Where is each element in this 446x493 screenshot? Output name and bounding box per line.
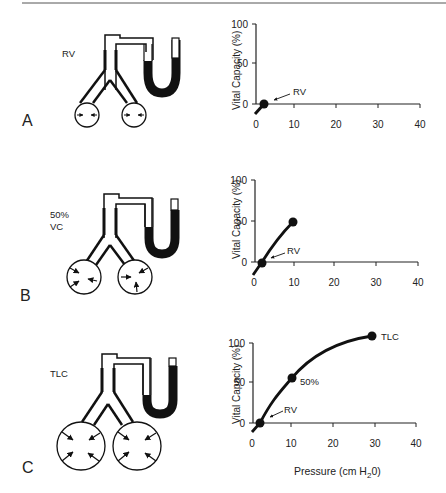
y-axis-label: Vital Capacity (%) [231,31,242,110]
y-tick-50: 50 [237,58,249,69]
y-tick-100: 100 [230,175,247,186]
chart-b: Vital Capacity (%) 100 50 0 0 10 20 30 4… [230,175,424,288]
panel-letter-c: C [22,459,34,476]
point-rv [260,100,269,109]
y-tick-0: 0 [242,99,248,110]
point-tlc [368,332,377,341]
state-label-tlc: TLC [50,368,68,379]
lung-apparatus-b [67,194,178,294]
x-tick-10: 10 [285,438,297,449]
annotation-arrow [270,411,283,417]
y-tick-0: 0 [239,418,245,429]
alveolus-left [67,260,101,294]
annotation-rv: RV [284,404,298,415]
panel-b: B 50% VC Vital Capacity (%) [20,175,424,304]
point-50 [288,374,297,383]
panel-a: A RV [22,19,426,130]
panel-letter-b: B [20,287,31,304]
annotation-arrow [274,94,290,100]
x-tick-40: 40 [414,119,426,130]
x-tick-0: 0 [249,438,255,449]
annotation-rv: RV [293,86,307,97]
x-tick-30: 30 [369,438,381,449]
figure-canvas: A RV [0,0,446,493]
x-tick-0: 0 [251,277,257,288]
annotation-rv: RV [287,245,301,256]
annotation-tlc: TLC [381,331,399,342]
x-tick-40: 40 [412,277,424,288]
x-tick-20: 20 [327,438,339,449]
state-label-50: 50% [50,209,70,220]
state-label-rv: RV [62,48,76,59]
point-rv [258,259,267,268]
chart-a: Vital Capacity (%) 100 50 0 0 10 20 30 4… [231,19,426,130]
panel-c: C TLC Vital Capacity (%) [22,331,422,480]
chart-c: Vital Capacity (%) 100 50 0 0 10 20 30 4… [228,331,422,480]
point-rv [256,419,265,428]
x-tick-10: 10 [288,277,300,288]
x-tick-10: 10 [288,119,300,130]
panel-letter-a: A [22,112,33,129]
y-tick-100: 100 [231,19,248,30]
x-tick-20: 20 [330,119,342,130]
x-tick-40: 40 [410,438,422,449]
y-tick-50: 50 [236,216,248,227]
x-axis-label: Pressure (cm H20) [294,465,381,480]
y-tick-100: 100 [228,338,245,349]
x-tick-20: 20 [328,277,340,288]
alveolus-left [57,422,105,470]
annotation-arrow [271,253,285,258]
y-tick-0: 0 [241,257,247,268]
lung-apparatus-a [75,35,179,127]
y-tick-50: 50 [234,377,246,388]
annotation-50: 50% [300,376,320,387]
x-tick-30: 30 [372,119,384,130]
x-tick-30: 30 [370,277,382,288]
state-label-vc: VC [50,221,63,232]
alveolus-right [113,422,161,470]
lung-apparatus-c [57,354,176,470]
x-tick-0: 0 [253,119,259,130]
point-50 [289,218,298,227]
